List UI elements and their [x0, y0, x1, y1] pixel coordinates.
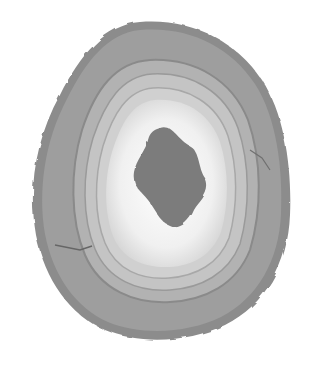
agate-slice-illustration	[0, 0, 311, 367]
agate-image	[0, 0, 311, 367]
